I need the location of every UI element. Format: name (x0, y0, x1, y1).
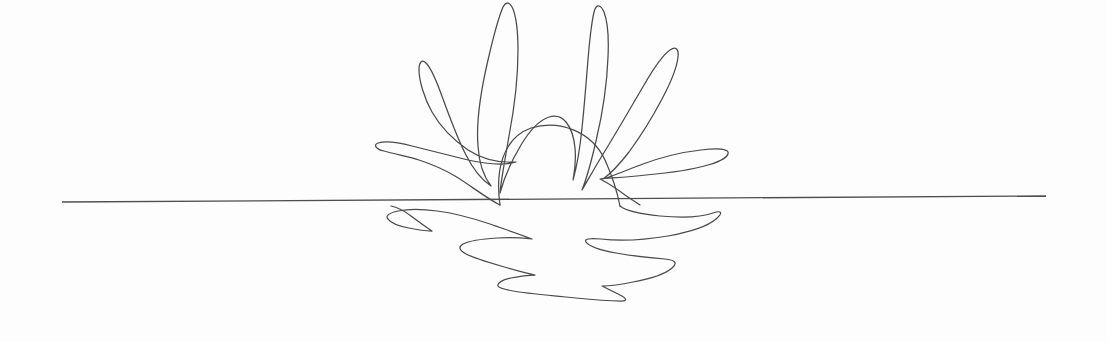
water-reflection-path (387, 206, 721, 301)
sun-disc-path (499, 125, 620, 206)
artwork-canvas: Sunrise Over Water Continuous single-lin… (0, 0, 1107, 342)
horizon-line (62, 196, 1046, 202)
sun-rays-path (376, 3, 729, 205)
sunrise-line-drawing (0, 0, 1107, 342)
